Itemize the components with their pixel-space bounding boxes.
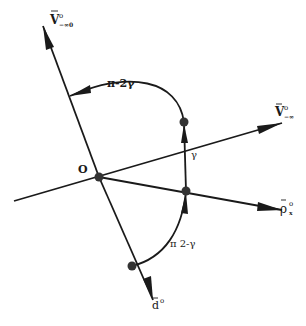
point-upper-right — [180, 118, 189, 127]
arrowhead-icon — [257, 123, 282, 134]
point-lower-right — [182, 187, 191, 196]
vector-rho-x — [99, 177, 282, 211]
svg-text:x: x — [289, 209, 293, 216]
vector-v-minus0 — [43, 26, 99, 177]
svg-text:o: o — [284, 104, 288, 112]
arc-gamma — [181, 122, 188, 191]
point-bottom — [128, 262, 137, 271]
arrowhead-icon — [70, 85, 91, 96]
arrowhead-icon — [43, 26, 54, 50]
label-v-minus0: V o −∞0 — [49, 11, 73, 28]
vector-d — [99, 177, 153, 300]
svg-text:ρ: ρ — [280, 202, 287, 216]
svg-text:−∞: −∞ — [284, 113, 294, 120]
svg-text:−∞0: −∞0 — [59, 21, 73, 28]
arrowhead-icon — [257, 202, 282, 211]
arrowhead-icon — [181, 124, 188, 143]
origin-label: O — [78, 163, 88, 176]
label-v-minus-s: V o −∞ — [274, 104, 294, 120]
svg-text:o: o — [160, 297, 164, 305]
origin-point — [95, 173, 104, 182]
label-d: d o — [152, 297, 164, 312]
vector-v-minus-s — [14, 123, 282, 201]
svg-text:d: d — [152, 299, 159, 312]
svg-text:o: o — [289, 200, 293, 208]
angle-label-pi-2-gamma: π 2-γ — [170, 238, 195, 249]
arrowhead-icon — [143, 276, 153, 300]
svg-text:o: o — [59, 12, 63, 20]
label-rho-x: ρ o x — [280, 200, 293, 216]
angle-label-pi-minus-2gamma: π-2γ — [107, 77, 135, 90]
vector-diagram: O V o −∞0 V o −∞ ρ o x d o π-2γ γ π 2-γ — [0, 0, 306, 326]
angle-label-gamma: γ — [191, 149, 197, 160]
arc-pi-2-gamma — [132, 191, 188, 266]
